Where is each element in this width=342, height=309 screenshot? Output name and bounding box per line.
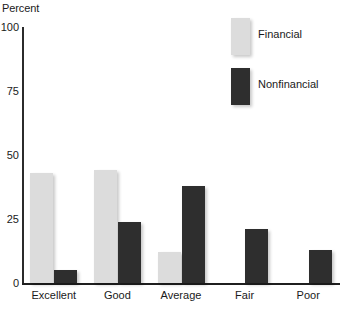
bar-average-financial bbox=[158, 252, 181, 283]
y-axis-tick-0: 0 bbox=[13, 278, 19, 289]
bar-fair-nonfinancial bbox=[245, 229, 268, 283]
y-axis-tick-25: 25 bbox=[7, 214, 19, 225]
x-axis-line bbox=[22, 283, 340, 285]
legend-label-financial: Financial bbox=[258, 28, 302, 40]
bar-excellent-nonfinancial bbox=[54, 270, 77, 283]
bar-good-nonfinancial bbox=[118, 222, 141, 283]
y-axis-tick-100: 100 bbox=[1, 22, 19, 33]
x-axis-label-excellent: Excellent bbox=[31, 289, 76, 301]
legend: Financial Nonfinancial bbox=[228, 16, 342, 116]
legend-swatch-financial bbox=[231, 18, 250, 55]
legend-label-nonfinancial: Nonfinancial bbox=[258, 78, 319, 90]
x-axis-label-fair: Fair bbox=[235, 289, 254, 301]
bar-good-financial bbox=[94, 170, 117, 283]
legend-item-nonfinancial: Nonfinancial bbox=[228, 66, 342, 106]
x-axis-label-average: Average bbox=[161, 289, 202, 301]
bar-average-nonfinancial bbox=[182, 186, 205, 283]
legend-item-financial: Financial bbox=[228, 16, 342, 56]
y-axis-tick-50: 50 bbox=[7, 150, 19, 161]
bar-chart: Percent 0255075100 ExcellentGoodAverageF… bbox=[0, 0, 342, 309]
y-axis-tick-75: 75 bbox=[7, 86, 19, 97]
bar-poor-nonfinancial bbox=[309, 250, 332, 283]
y-axis-title: Percent bbox=[2, 2, 39, 14]
bar-excellent-financial bbox=[30, 173, 53, 283]
y-axis-line bbox=[22, 27, 24, 283]
legend-swatch-nonfinancial bbox=[231, 68, 250, 105]
x-axis-label-poor: Poor bbox=[297, 289, 320, 301]
x-axis-label-good: Good bbox=[104, 289, 131, 301]
